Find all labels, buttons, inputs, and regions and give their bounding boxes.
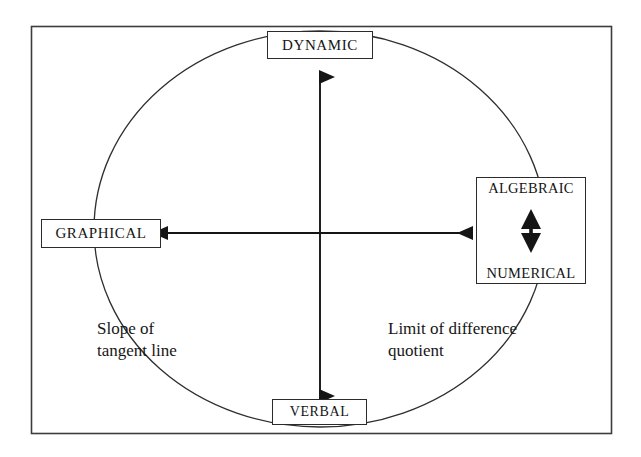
node-dynamic-label: DYNAMIC: [282, 38, 358, 53]
double-headed-arrow-icon: [516, 208, 546, 254]
node-algebraic-label: ALGEBRAIC: [488, 181, 574, 196]
node-numerical-label: NUMERICAL: [487, 266, 576, 281]
algebraic-numerical-link-arrow: [477, 196, 585, 266]
node-verbal: VERBAL: [272, 399, 367, 425]
node-algebraic-numerical: ALGEBRAIC NUMERICAL: [476, 177, 586, 284]
representation-diagram: DYNAMIC GRAPHICAL ALGEBRAIC NUMERICAL VE…: [0, 0, 641, 457]
annotation-limit-of-difference-quotient: Limit of difference quotient: [388, 318, 517, 362]
node-dynamic: DYNAMIC: [267, 31, 373, 59]
annotation-slope-of-tangent-line: Slope of tangent line: [97, 318, 177, 362]
node-graphical: GRAPHICAL: [41, 219, 161, 248]
node-verbal-label: VERBAL: [290, 405, 350, 419]
node-graphical-label: GRAPHICAL: [55, 226, 146, 241]
